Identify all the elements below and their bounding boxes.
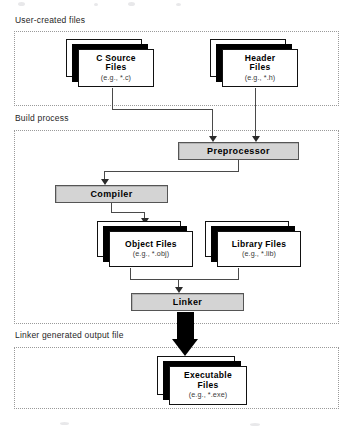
file-node-subtitle: (e.g., *.c) [101, 74, 131, 82]
process-node-preprocessor[interactable]: Preprocessor [178, 142, 299, 160]
connector-object-to-linker-h [130, 279, 178, 280]
section-label-build-process: Build process [15, 113, 69, 123]
connector-header-to-preprocessor [255, 88, 256, 138]
scan-speck [60, 422, 69, 425]
connector-c-source-to-preprocessor-h [112, 109, 213, 110]
file-node-title-line-2: Files [250, 63, 271, 73]
scan-speck [250, 423, 260, 426]
block-arrow-head [172, 339, 198, 356]
file-node-title-line-2: Files [106, 63, 127, 73]
process-node-linker-label: Linker [173, 297, 202, 307]
block-arrow-shaft [177, 312, 194, 340]
block-arrow-linker-to-executable [170, 312, 202, 357]
connector-library-to-linker-h [178, 279, 239, 280]
process-node-linker[interactable]: Linker [131, 293, 244, 311]
sheet-front: Executable Files (e.g., *.exe) [169, 366, 247, 405]
sheet-front: Library Files (e.g., *.lib) [217, 231, 301, 267]
file-node-title-line-2: Files [198, 381, 219, 391]
file-node-title-line-1: Object Files [125, 240, 177, 250]
file-node-executable-files[interactable]: Executable Files (e.g., *.exe) [157, 356, 257, 406]
process-node-preprocessor-label: Preprocessor [207, 146, 270, 156]
connector-compiler-to-object-h [111, 212, 144, 213]
file-node-object-files[interactable]: Object Files (e.g., *.obj) [97, 221, 197, 269]
file-node-subtitle: (e.g., *.exe) [189, 391, 227, 399]
scan-speck [128, 2, 135, 6]
file-node-c-source-files[interactable]: C Source Files (e.g., *.c) [66, 39, 158, 89]
connector-c-source-to-preprocessor-v1 [112, 88, 113, 110]
scan-speck [176, 3, 181, 6]
connector-c-source-to-preprocessor-v2 [212, 109, 213, 138]
process-node-compiler-label: Compiler [90, 189, 132, 199]
sheet-front: C Source Files (e.g., *.c) [78, 49, 154, 87]
file-node-subtitle: (e.g., *.lib) [242, 250, 276, 258]
connector-preprocessor-to-compiler-h [104, 171, 239, 172]
file-node-title-line-1: Library Files [232, 240, 286, 250]
sheet-front: Header Files (e.g., *.h) [222, 49, 298, 87]
diagram-canvas: User-created files Build process Linker … [0, 0, 355, 429]
file-node-subtitle: (e.g., *.h) [245, 74, 276, 82]
file-node-header-files[interactable]: Header Files (e.g., *.h) [210, 39, 302, 89]
sheet-front: Object Files (e.g., *.obj) [109, 231, 193, 267]
section-label-linker-output: Linker generated output file [15, 330, 124, 340]
scan-speck [18, 2, 25, 6]
file-node-subtitle: (e.g., *.obj) [133, 250, 169, 258]
process-node-compiler[interactable]: Compiler [55, 185, 168, 203]
file-node-library-files[interactable]: Library Files (e.g., *.lib) [205, 221, 305, 269]
scan-speck [94, 3, 98, 6]
section-label-user-created: User-created files [15, 15, 85, 25]
